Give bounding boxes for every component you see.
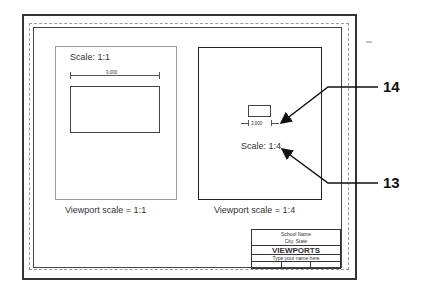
title-block-cell: [311, 262, 340, 268]
leader-arrows: [0, 0, 424, 291]
name-field: Type your name here: [252, 255, 340, 262]
school-info: School Name City, State: [252, 230, 340, 246]
title-block-cell: [252, 262, 282, 268]
callout-14: 14: [383, 78, 400, 95]
school-name: School Name: [252, 231, 340, 238]
drawing-title: VIEWPORTS: [252, 246, 340, 255]
title-block: School Name City, State VIEWPORTS Type y…: [251, 229, 341, 269]
callout-13: 13: [383, 174, 400, 191]
title-block-cells: [252, 262, 340, 268]
title-block-cell: [282, 262, 312, 268]
city-state: City, State: [252, 238, 340, 245]
